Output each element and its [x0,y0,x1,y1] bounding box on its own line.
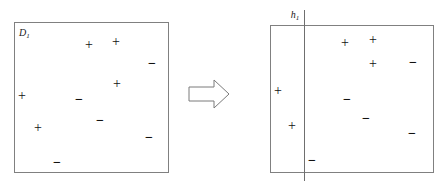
negative-example-mark: − [409,56,417,70]
hypothesis-panel-label: h1 [291,10,300,20]
positive-example-mark: + [288,119,296,133]
positive-example-mark: + [369,57,377,71]
dataset-label-subscript: 1 [26,32,30,40]
negative-example-mark: − [343,93,351,107]
negative-example-mark: − [96,114,104,128]
transformation-arrow [188,79,230,109]
hypothesis-panel-box [270,25,434,173]
positive-example-mark: + [85,38,93,52]
negative-example-mark: − [362,112,370,126]
negative-example-mark: − [408,127,416,141]
figure-canvas: D1 ++−++−−+−− h1 +++−+−−+−− [0,0,447,189]
positive-example-mark: + [112,35,120,49]
positive-example-mark: + [18,89,26,103]
negative-example-mark: − [53,156,61,170]
negative-example-mark: − [308,154,316,168]
positive-example-mark: + [274,84,282,98]
negative-example-mark: − [148,57,156,71]
negative-example-mark: − [145,131,153,145]
positive-example-mark: + [113,77,121,91]
negative-example-mark: − [75,93,83,107]
positive-example-mark: + [34,121,42,135]
decision-boundary-line [304,10,305,181]
right-arrow-icon [188,79,230,109]
hypothesis-label-subscript: 1 [296,14,300,22]
positive-example-mark: + [369,33,377,47]
dataset-panel-label: D1 [19,28,30,38]
positive-example-mark: + [341,36,349,50]
